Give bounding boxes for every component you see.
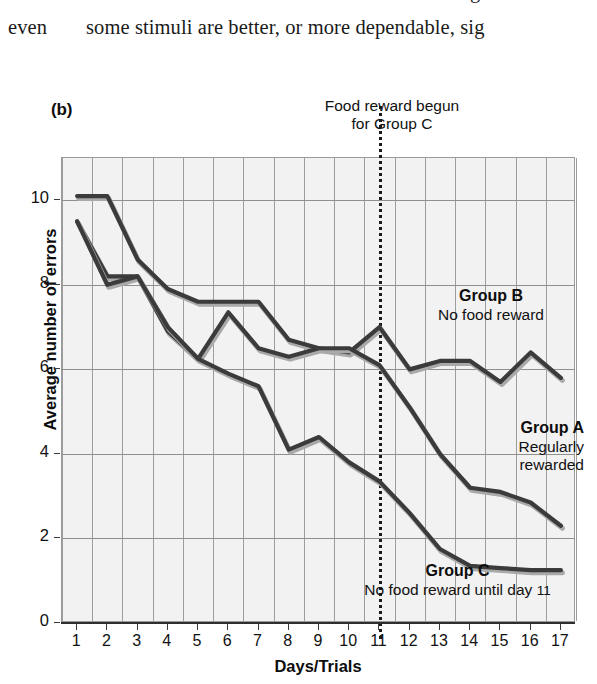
y-tick-label: 10	[9, 188, 49, 207]
plot-area	[61, 157, 575, 622]
x-tick-label: 13	[424, 632, 454, 650]
annotation-group-a: Group A Regularly rewarded	[404, 419, 584, 473]
y-tick-label: 0	[9, 611, 49, 630]
annotation-group-a-detail-line2: rewarded	[404, 456, 584, 474]
x-tick-mark	[499, 624, 500, 630]
x-tick-label: 9	[303, 632, 333, 650]
x-tick-mark	[469, 624, 470, 630]
x-tick-label: 6	[212, 632, 242, 650]
x-tick-mark	[439, 624, 440, 630]
annotation-group-c-detail-day: 11	[537, 583, 551, 598]
event-annotation-line2: for Group C	[286, 115, 498, 133]
event-annotation-line1: Food reward begun	[286, 97, 498, 115]
x-tick-mark	[378, 624, 379, 630]
y-tick-label: 4	[9, 442, 49, 461]
y-tick-label: 2	[9, 526, 49, 545]
x-tick-label: 1	[61, 632, 91, 650]
figure-panel-b: (b) Food reward begun for Group C Averag…	[0, 92, 597, 684]
body-text-left-fragment: even	[8, 16, 47, 39]
x-tick-label: 4	[152, 632, 182, 650]
x-tick-label: 7	[243, 632, 273, 650]
annotation-group-c-detail: No food reward until day 11	[330, 581, 585, 599]
y-tick-mark	[54, 199, 60, 200]
panel-label: (b)	[51, 100, 72, 120]
grid-line-vertical	[576, 158, 577, 621]
x-tick-label: 11	[363, 632, 393, 650]
annotation-group-c: Group C No food reward until day 11	[330, 562, 585, 599]
x-tick-mark	[288, 624, 289, 630]
annotation-group-a-detail-line1: Regularly	[404, 438, 584, 456]
annotation-group-b: Group B No food reward	[398, 287, 584, 324]
x-tick-label: 17	[545, 632, 575, 650]
y-tick-label: 6	[9, 357, 49, 376]
x-tick-mark	[409, 624, 410, 630]
data-series-layer	[62, 158, 576, 623]
x-tick-mark	[197, 624, 198, 630]
x-tick-label: 16	[515, 632, 545, 650]
page-body-text: g even some stimuli are better, or more …	[0, 0, 597, 92]
x-tick-label: 10	[333, 632, 363, 650]
x-tick-mark	[348, 624, 349, 630]
x-tick-mark	[318, 624, 319, 630]
x-tick-mark	[167, 624, 168, 630]
x-tick-mark	[530, 624, 531, 630]
annotation-group-a-heading: Group A	[404, 419, 584, 438]
x-tick-label: 5	[182, 632, 212, 650]
y-tick-mark	[54, 453, 60, 454]
y-tick-mark	[54, 284, 60, 285]
x-tick-label: 8	[273, 632, 303, 650]
y-tick-label: 8	[9, 273, 49, 292]
x-tick-label: 2	[91, 632, 121, 650]
x-tick-mark	[227, 624, 228, 630]
x-tick-mark	[560, 624, 561, 630]
x-tick-label: 3	[122, 632, 152, 650]
body-text-right-fragment: some stimuli are better, or more dependa…	[86, 16, 484, 39]
y-tick-mark	[54, 368, 60, 369]
annotation-group-b-detail: No food reward	[398, 306, 584, 324]
annotation-group-b-heading: Group B	[398, 287, 584, 306]
x-tick-mark	[137, 624, 138, 630]
annotation-group-c-heading: Group C	[330, 562, 585, 581]
y-tick-mark	[54, 622, 60, 623]
x-tick-mark	[76, 624, 77, 630]
x-tick-mark	[258, 624, 259, 630]
clipped-descender-glyph: g	[470, 0, 486, 3]
annotation-group-c-detail-prefix: No food reward until day	[364, 581, 536, 598]
y-tick-mark	[54, 537, 60, 538]
x-tick-label: 15	[484, 632, 514, 650]
event-annotation: Food reward begun for Group C	[286, 97, 498, 134]
x-tick-mark	[106, 624, 107, 630]
x-axis-label: Days/Trials	[61, 657, 575, 676]
x-tick-label: 12	[394, 632, 424, 650]
y-axis-label: Average number of errors	[41, 200, 60, 460]
x-tick-label: 14	[454, 632, 484, 650]
